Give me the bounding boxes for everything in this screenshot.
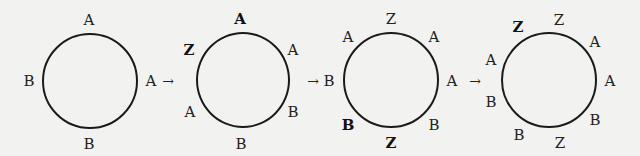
circle-1-label-top: A <box>84 13 95 28</box>
circle-3-label-right: A <box>447 74 458 89</box>
circle-3-label-left: B <box>323 74 334 89</box>
circle-2-label-lower-left: A <box>185 105 196 120</box>
circle-3-label-upper-right: A <box>429 30 440 45</box>
circle-3-label-upper-left: A <box>343 30 354 45</box>
circle-2-label-bottom: B <box>235 137 246 152</box>
circle-4-label-upper-right: A <box>590 35 601 50</box>
circle-3-label-bottom: Z <box>386 136 397 151</box>
circle-2-label-top: A <box>234 12 246 27</box>
circle-4-label-bottom: Z <box>555 136 565 151</box>
circle-1-label-right: A <box>146 74 157 89</box>
circle-1-label-bottom: B <box>83 137 94 152</box>
circle-3-label-top: Z <box>386 12 396 27</box>
circle-2-label-lower-right: B <box>287 105 298 120</box>
circle-2-label-upper-right: A <box>288 43 299 58</box>
arrow-icon: → <box>162 74 174 88</box>
circle-4-label-lower-left: B <box>513 128 524 143</box>
circle-4-label-upper-left: Z <box>513 20 524 35</box>
circle-4-label-right: A <box>605 74 616 89</box>
circle-1-label-left: B <box>23 74 34 89</box>
circle-3-label-lower-right: B <box>428 118 439 133</box>
circle-sequence-diagram: A A B B → A A B B A Z → Z A A B Z B B A … <box>0 0 640 156</box>
arrow-icon: → <box>469 74 481 88</box>
circle-4-label-lower-right: B <box>589 113 600 128</box>
circle-3-label-lower-left: B <box>342 118 355 133</box>
circle-1 <box>42 33 138 129</box>
circle-4-label-top: Z <box>554 13 564 28</box>
circle-4-label-left-upper: A <box>486 53 497 68</box>
arrow-icon: → <box>307 74 319 88</box>
circle-2-label-upper-left: Z <box>184 43 195 58</box>
circle-3 <box>343 32 439 128</box>
circle-2 <box>196 32 290 128</box>
circle-4-label-left-lower: B <box>485 95 496 110</box>
circle-4 <box>501 32 597 128</box>
